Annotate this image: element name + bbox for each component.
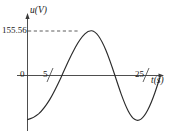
y-axis-label: u(V) <box>30 6 47 16</box>
x-tick-label-5: 5 <box>43 70 48 79</box>
waveform-plot <box>0 0 173 136</box>
y-axis-arrow-icon <box>25 13 29 19</box>
origin-label: 0 <box>20 70 25 79</box>
x-tick-label-25: 25 <box>135 70 144 79</box>
voltage-waveform-figure: u(V) t(s) 155.56 0 5 25 <box>0 0 173 136</box>
x-axis-label: t(s) <box>151 76 164 86</box>
peak-value-label: 155.56 <box>2 26 27 35</box>
